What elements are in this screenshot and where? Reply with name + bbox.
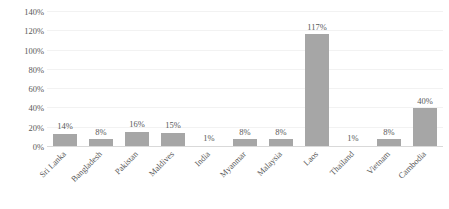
bar-value-label: 117%: [307, 23, 327, 32]
bar-value-label: 14%: [57, 122, 73, 131]
bar-value-label: 1%: [347, 134, 358, 143]
bar-slot: 1%: [335, 12, 371, 147]
y-tick-label: 80%: [0, 66, 44, 75]
bar-slot: 15%: [155, 12, 191, 147]
y-tick-label: 40%: [0, 104, 44, 113]
x-axis-category: Laos: [299, 149, 335, 209]
bar-chart: 0%20%40%60%80%100%120%140% 14%8%16%15%1%…: [0, 0, 449, 209]
y-tick-label: 140%: [0, 8, 44, 17]
x-axis: Sri LankaBangladeshPakistanMaldivesIndia…: [47, 149, 443, 209]
bar-slot: 8%: [83, 12, 119, 147]
bar-value-label: 15%: [165, 121, 181, 130]
bar[interactable]: [305, 34, 329, 147]
bar-value-label: 8%: [275, 128, 286, 137]
x-axis-category: Myanmar: [227, 149, 263, 209]
y-tick-label: 120%: [0, 27, 44, 36]
y-tick-label: 60%: [0, 85, 44, 94]
y-tick-label: 20%: [0, 123, 44, 132]
x-axis-category: Pakistan: [119, 149, 155, 209]
bar-slot: 8%: [227, 12, 263, 147]
x-axis-category: Bangladesh: [83, 149, 119, 209]
bar-value-label: 8%: [383, 128, 394, 137]
bar-value-label: 40%: [417, 97, 433, 106]
y-tick-label: 100%: [0, 46, 44, 55]
x-axis-category: Maldives: [155, 149, 191, 209]
x-axis-category: India: [191, 149, 227, 209]
x-axis-category-label: Sri Lanka: [38, 150, 68, 180]
y-tick-label: 0%: [0, 143, 44, 152]
x-axis-category: Cambodia: [407, 149, 443, 209]
bar-slot: 117%: [299, 12, 335, 147]
plot-area: 14%8%16%15%1%8%8%117%1%8%40%: [47, 12, 443, 147]
x-axis-category-label: India: [193, 150, 211, 168]
y-axis: 0%20%40%60%80%100%120%140%: [0, 12, 44, 147]
bar-slot: 40%: [407, 12, 443, 147]
bar-slot: 8%: [263, 12, 299, 147]
bar-slot: 14%: [47, 12, 83, 147]
bar-value-label: 8%: [239, 128, 250, 137]
bar-slot: 1%: [191, 12, 227, 147]
x-axis-category: Thailand: [335, 149, 371, 209]
x-axis-category: Malaysia: [263, 149, 299, 209]
bar-value-label: 1%: [203, 134, 214, 143]
bar-value-label: 8%: [95, 128, 106, 137]
x-axis-category-label: Laos: [302, 150, 320, 168]
bar-slot: 8%: [371, 12, 407, 147]
